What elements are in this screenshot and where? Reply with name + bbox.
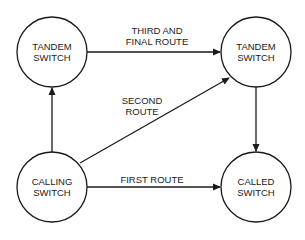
second-route-arrow — [80, 78, 229, 163]
called-switch-label: CALLED SWITCH — [221, 176, 291, 198]
tandem-switch-right-label: TANDEM SWITCH — [221, 41, 291, 63]
first-route-label: FIRST ROUTE — [112, 174, 192, 185]
second-route-label: SECOND ROUTE — [112, 95, 172, 117]
calling-switch-label: CALLING SWITCH — [17, 176, 87, 198]
third-final-route-label: THIRD AND FINAL ROUTE — [117, 25, 197, 47]
tandem-switch-left-label: TANDEM SWITCH — [17, 41, 87, 63]
